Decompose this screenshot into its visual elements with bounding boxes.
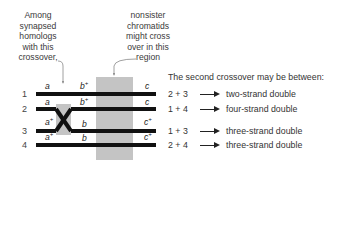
outcome-row: 2 + 3 two-strand double (168, 89, 296, 99)
allele-4-a: a+ (45, 131, 53, 142)
outcome-result: four-strand double (226, 104, 297, 114)
allele-2-c: c (145, 96, 149, 107)
allele-3-c: c+ (144, 116, 152, 127)
outcome-pair: 1 + 3 (168, 126, 198, 136)
allele-2-b: b+ (80, 96, 88, 107)
outcome-row: 2 + 4 three-strand double (168, 140, 302, 150)
arrow-right-icon (200, 141, 220, 149)
chromatid-2-line-left (36, 107, 56, 111)
chromatid-1-line (36, 92, 156, 96)
outcome-result: three-strand double (226, 126, 302, 136)
crossover-region (96, 77, 133, 160)
allele-4-c: c+ (144, 131, 152, 142)
chromatid-number-2: 2 (22, 104, 27, 114)
allele-3-a: a+ (45, 116, 53, 127)
allele-1-b: b+ (80, 80, 88, 91)
chromatid-4-line (36, 143, 156, 147)
allele-1-a: a (45, 80, 50, 91)
outcome-row: 1 + 3 three-strand double (168, 126, 302, 136)
outcome-result: two-strand double (226, 89, 296, 99)
outcomes-heading: The second crossover may be between: (168, 72, 324, 82)
allele-2-a: a (45, 96, 50, 107)
outcome-pair: 1 + 4 (168, 104, 198, 114)
crossover-x-icon (54, 106, 73, 134)
arrow-right-icon (200, 105, 220, 113)
arrow-right-icon (200, 90, 220, 98)
allele-3-b: b (82, 118, 87, 129)
chromatid-number-3: 3 (22, 126, 27, 136)
outcome-row: 1 + 4 four-strand double (168, 104, 297, 114)
outcome-pair: 2 + 4 (168, 140, 198, 150)
chromatid-2-line-right (71, 107, 156, 111)
chromatid-number-4: 4 (22, 140, 27, 150)
chromatid-number-1: 1 (22, 89, 27, 99)
outcome-pair: 2 + 3 (168, 89, 198, 99)
outcome-result: three-strand double (226, 140, 302, 150)
allele-4-b: b (82, 132, 87, 143)
arrow-right-icon (200, 127, 220, 135)
allele-1-c: c (145, 80, 149, 91)
